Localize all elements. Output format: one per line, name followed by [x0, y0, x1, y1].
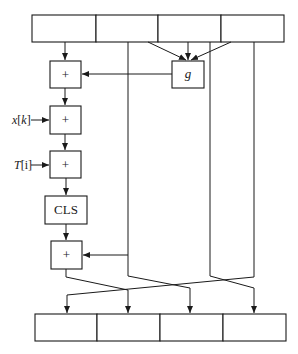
bottom-register-cell-2 [97, 314, 160, 341]
wire-adder-4-to-bottom-2 [66, 269, 128, 313]
arrow-to-g-left [148, 42, 186, 60]
bottom-register [35, 314, 286, 341]
diagram-canvas: + + + CLS + g x[k] T[i] [0, 0, 298, 354]
adder-2-label: + [62, 112, 69, 127]
wire-top-3-to-bottom-4 [210, 42, 254, 313]
top-register-cell-4 [221, 15, 284, 42]
adder-1-label: + [62, 67, 69, 82]
g-function-label: g [185, 66, 192, 81]
adder-4-label: + [63, 247, 70, 262]
wire-top-4-to-bottom-1 [67, 42, 254, 313]
top-register-cell-3 [158, 15, 221, 42]
top-register-cell-1 [32, 15, 96, 42]
top-register [32, 15, 284, 42]
t-i-input-label: T[i] [14, 158, 32, 172]
bottom-register-cell-1 [35, 314, 97, 341]
top-register-cell-2 [96, 15, 158, 42]
bottom-register-cell-3 [160, 314, 223, 341]
bottom-register-cell-4 [223, 314, 286, 341]
arrow-to-g-right [191, 42, 231, 60]
adder-3-label: + [62, 157, 69, 172]
x-k-input-label: x[k] [11, 113, 31, 127]
cls-label: CLS [54, 202, 78, 217]
